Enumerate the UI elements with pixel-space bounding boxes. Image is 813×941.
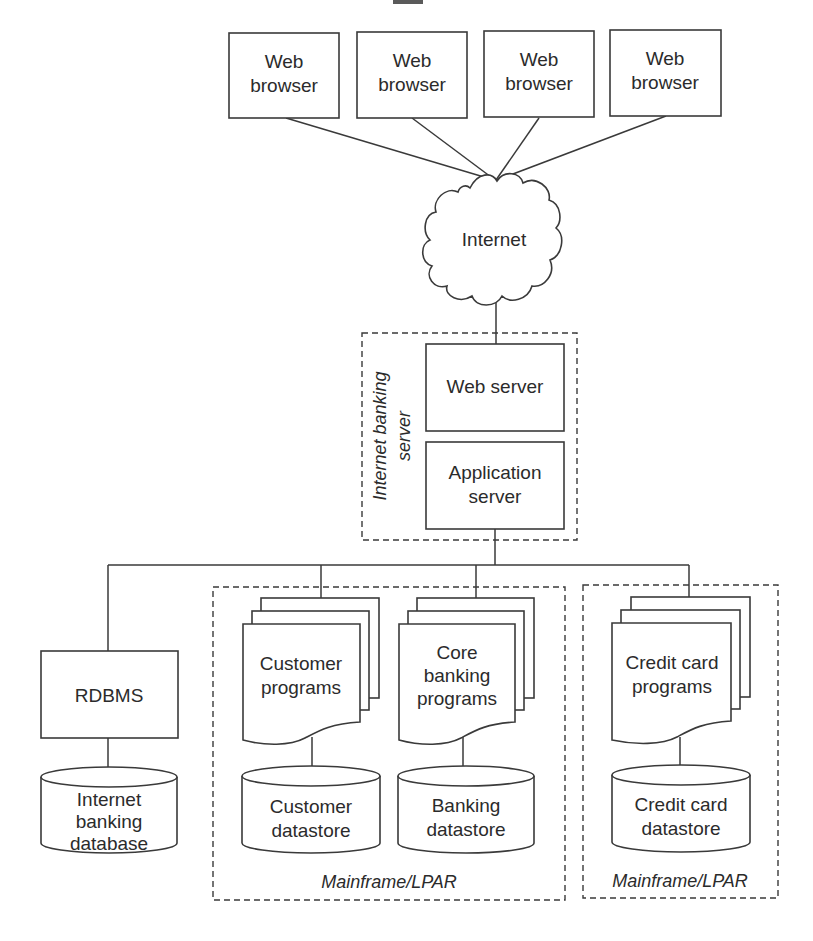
svg-text:Internet: Internet xyxy=(462,229,527,250)
svg-text:Core: Core xyxy=(436,642,477,663)
svg-text:browser: browser xyxy=(505,73,573,94)
web-browser-1: Web browser xyxy=(229,33,339,118)
svg-text:Web: Web xyxy=(520,49,559,70)
rdbms-server: RDBMS xyxy=(41,651,178,738)
svg-text:browser: browser xyxy=(631,72,699,93)
web-browser-2: Web browser xyxy=(357,32,467,118)
web-browser-4: Web browser xyxy=(610,30,721,116)
credit-card-programs-icon: Credit card programs xyxy=(612,597,750,743)
svg-text:Mainframe/LPAR: Mainframe/LPAR xyxy=(612,871,748,891)
svg-text:programs: programs xyxy=(417,688,497,709)
svg-text:Internet: Internet xyxy=(77,789,142,810)
application-server: Application server xyxy=(426,442,564,529)
svg-text:programs: programs xyxy=(632,676,712,697)
svg-text:Customer: Customer xyxy=(260,653,343,674)
svg-text:Web: Web xyxy=(265,51,304,72)
customer-datastore-icon: Customer datastore xyxy=(242,766,380,853)
credit-card-datastore-icon: Credit card datastore xyxy=(612,765,750,852)
svg-text:RDBMS: RDBMS xyxy=(75,685,144,706)
svg-text:Internet banking: Internet banking xyxy=(370,371,390,500)
banking-datastore-icon: Banking datastore xyxy=(398,766,534,853)
svg-text:browser: browser xyxy=(378,74,446,95)
svg-text:Web: Web xyxy=(393,50,432,71)
svg-text:datastore: datastore xyxy=(426,819,505,840)
browser-connectors xyxy=(286,116,666,180)
svg-text:Application: Application xyxy=(449,462,542,483)
svg-text:programs: programs xyxy=(261,677,341,698)
svg-text:browser: browser xyxy=(250,75,318,96)
internet-banking-database-icon: Internet banking database xyxy=(41,767,177,854)
svg-text:Web: Web xyxy=(646,48,685,69)
svg-text:server: server xyxy=(394,410,414,461)
architecture-diagram: Web browser Web browser Web browser Web … xyxy=(0,0,813,941)
svg-text:Mainframe/LPAR: Mainframe/LPAR xyxy=(321,872,457,892)
svg-text:database: database xyxy=(70,833,148,854)
svg-text:server: server xyxy=(469,486,522,507)
web-server: Web server xyxy=(426,344,564,431)
svg-text:Credit card: Credit card xyxy=(626,652,719,673)
svg-text:banking: banking xyxy=(424,665,491,686)
core-banking-programs-icon: Core banking programs xyxy=(399,598,534,744)
customer-programs-icon: Customer programs xyxy=(243,598,379,744)
svg-text:Customer: Customer xyxy=(270,796,353,817)
clipped-caption xyxy=(393,0,423,4)
svg-text:datastore: datastore xyxy=(641,818,720,839)
svg-text:Banking: Banking xyxy=(432,795,501,816)
web-browser-3: Web browser xyxy=(484,31,594,117)
svg-text:datastore: datastore xyxy=(271,820,350,841)
internet-cloud-icon: Internet xyxy=(423,174,562,305)
svg-text:banking: banking xyxy=(76,811,143,832)
svg-text:Credit card: Credit card xyxy=(635,794,728,815)
svg-text:Web server: Web server xyxy=(447,376,544,397)
